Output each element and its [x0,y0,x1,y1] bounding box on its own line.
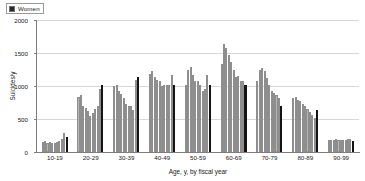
bar [173,85,175,152]
bar [101,85,103,152]
bar [137,77,139,152]
bar-group [328,20,354,152]
bar-group [221,20,247,152]
x-axis-ticks: 10-1920-2930-3940-4950-5960-6970-7980-89… [37,154,359,164]
bar [352,141,354,152]
plot-area [37,20,359,152]
bar-group [149,20,175,152]
bar-group [113,20,139,152]
x-axis-line [36,152,360,153]
bar [280,106,282,152]
bar [316,110,318,152]
x-tick-label: 80-89 [297,154,313,162]
y-tick-label: 1000 [0,83,28,90]
x-tick-label: 30-39 [119,154,135,162]
bar-group [292,20,318,152]
bar-group [42,20,68,152]
bar [244,85,246,152]
y-axis-ticks: 0500100015002000 [0,0,37,132]
bar-group [256,20,282,152]
y-tick-label: 1500 [0,50,28,57]
bar-group [77,20,103,152]
bar [66,137,68,152]
x-axis-title: Age, y, by fiscal year [37,167,359,176]
y-tick-label: 500 [0,116,28,123]
x-tick-label: 60-69 [226,154,242,162]
x-tick-label: 90-99 [333,154,349,162]
x-tick-label: 50-59 [190,154,206,162]
x-tick-label: 10-19 [47,154,63,162]
figure-panel-b: Women Suicides/y 0500100015002000 10-192… [0,0,365,181]
x-tick-label: 40-49 [154,154,170,162]
x-tick-label: 20-29 [83,154,99,162]
bar-series-container [37,20,359,152]
bar [209,85,211,152]
bar-group [185,20,211,152]
y-tick-label: 2000 [0,17,28,24]
y-tick-label: 0 [0,149,28,156]
x-tick-label: 70-79 [262,154,278,162]
